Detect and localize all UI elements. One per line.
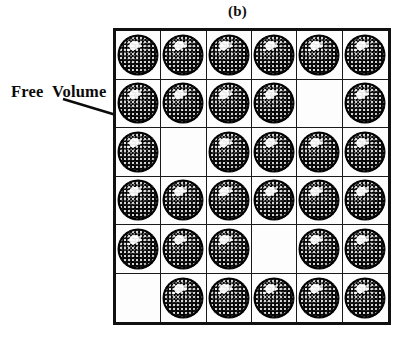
lattice-cell-occupied bbox=[161, 274, 206, 323]
molecule-texture-rim bbox=[345, 35, 385, 75]
molecule-texture-rim bbox=[118, 83, 158, 123]
molecule-texture-rim bbox=[254, 35, 294, 75]
lattice-cell-occupied bbox=[116, 80, 161, 129]
lattice-cell-occupied bbox=[343, 177, 388, 226]
molecule-texture-rim bbox=[209, 132, 249, 172]
lattice-cell-occupied bbox=[343, 31, 388, 80]
molecule-circle-icon bbox=[299, 35, 339, 75]
lattice-cell-occupied bbox=[207, 128, 252, 177]
molecule-texture-rim bbox=[299, 132, 339, 172]
figure-caption: (b) bbox=[0, 3, 417, 20]
lattice-cell-occupied bbox=[207, 225, 252, 274]
lattice-cell-occupied bbox=[252, 274, 297, 323]
molecule-circle-icon bbox=[209, 180, 249, 220]
molecule-circle-icon bbox=[299, 229, 339, 269]
lattice-cell-occupied bbox=[116, 177, 161, 226]
molecule-circle-icon bbox=[118, 35, 158, 75]
lattice-cell-occupied bbox=[343, 128, 388, 177]
molecule-circle-icon bbox=[163, 83, 203, 123]
lattice-cell-occupied bbox=[297, 225, 342, 274]
lattice-cell-occupied bbox=[207, 177, 252, 226]
molecule-circle-icon bbox=[345, 35, 385, 75]
lattice-cell-occupied bbox=[297, 177, 342, 226]
molecule-texture-rim bbox=[118, 132, 158, 172]
molecule-circle-icon bbox=[254, 180, 294, 220]
molecule-texture-rim bbox=[345, 132, 385, 172]
molecule-circle-icon bbox=[118, 180, 158, 220]
figure-canvas: (b) Free Volume bbox=[0, 0, 417, 342]
molecule-texture-rim bbox=[118, 35, 158, 75]
molecule-texture-rim bbox=[163, 229, 203, 269]
molecule-texture-rim bbox=[345, 180, 385, 220]
molecule-texture-rim bbox=[299, 180, 339, 220]
molecule-texture-rim bbox=[254, 180, 294, 220]
lattice-cell-occupied bbox=[297, 31, 342, 80]
molecule-circle-icon bbox=[299, 132, 339, 172]
molecule-circle-icon bbox=[209, 278, 249, 318]
lattice-cell-occupied bbox=[207, 80, 252, 129]
molecule-circle-icon bbox=[254, 278, 294, 318]
molecule-texture-rim bbox=[209, 35, 249, 75]
molecule-circle-icon bbox=[299, 180, 339, 220]
lattice-grid bbox=[113, 28, 391, 325]
molecule-texture-rim bbox=[254, 132, 294, 172]
molecule-texture-rim bbox=[163, 180, 203, 220]
molecule-circle-icon bbox=[118, 229, 158, 269]
molecule-texture-rim bbox=[163, 83, 203, 123]
molecule-circle-icon bbox=[345, 132, 385, 172]
lattice-cell-free-volume bbox=[161, 128, 206, 177]
molecule-texture-rim bbox=[299, 35, 339, 75]
molecule-texture-rim bbox=[345, 278, 385, 318]
molecule-circle-icon bbox=[118, 83, 158, 123]
lattice-cell-occupied bbox=[343, 274, 388, 323]
molecule-circle-icon bbox=[163, 278, 203, 318]
molecule-texture-rim bbox=[209, 229, 249, 269]
lattice-cell-occupied bbox=[161, 80, 206, 129]
molecule-texture-rim bbox=[299, 229, 339, 269]
lattice-cell-occupied bbox=[161, 177, 206, 226]
lattice-cell-occupied bbox=[116, 31, 161, 80]
lattice-cell-occupied bbox=[297, 128, 342, 177]
lattice-cell-occupied bbox=[252, 128, 297, 177]
molecule-circle-icon bbox=[163, 35, 203, 75]
molecule-circle-icon bbox=[254, 35, 294, 75]
molecule-circle-icon bbox=[209, 83, 249, 123]
molecule-texture-rim bbox=[254, 278, 294, 318]
molecule-circle-icon bbox=[254, 83, 294, 123]
molecule-texture-rim bbox=[118, 229, 158, 269]
molecule-circle-icon bbox=[163, 229, 203, 269]
molecule-texture-rim bbox=[163, 35, 203, 75]
molecule-circle-icon bbox=[118, 132, 158, 172]
molecule-circle-icon bbox=[163, 180, 203, 220]
lattice-cell-occupied bbox=[116, 225, 161, 274]
lattice-cell-occupied bbox=[343, 225, 388, 274]
lattice-cell-occupied bbox=[343, 80, 388, 129]
lattice-cell-occupied bbox=[207, 274, 252, 323]
molecule-circle-icon bbox=[254, 132, 294, 172]
lattice-cell-occupied bbox=[161, 31, 206, 80]
free-volume-annotation-label: Free Volume bbox=[11, 82, 107, 102]
lattice-cell-occupied bbox=[207, 31, 252, 80]
molecule-texture-rim bbox=[118, 180, 158, 220]
molecule-circle-icon bbox=[209, 35, 249, 75]
lattice-cell-free-volume bbox=[252, 225, 297, 274]
molecule-texture-rim bbox=[345, 229, 385, 269]
lattice-cell-occupied bbox=[161, 225, 206, 274]
molecule-texture-rim bbox=[163, 278, 203, 318]
molecule-circle-icon bbox=[209, 132, 249, 172]
molecule-circle-icon bbox=[209, 229, 249, 269]
lattice-cell-free-volume bbox=[116, 274, 161, 323]
molecule-texture-rim bbox=[209, 83, 249, 123]
lattice-cell-occupied bbox=[116, 128, 161, 177]
molecule-texture-rim bbox=[254, 83, 294, 123]
molecule-texture-rim bbox=[209, 180, 249, 220]
molecule-circle-icon bbox=[345, 180, 385, 220]
lattice-cell-occupied bbox=[252, 177, 297, 226]
molecule-texture-rim bbox=[209, 278, 249, 318]
lattice-cell-occupied bbox=[297, 274, 342, 323]
molecule-texture-rim bbox=[299, 278, 339, 318]
molecule-circle-icon bbox=[345, 278, 385, 318]
molecule-circle-icon bbox=[299, 278, 339, 318]
lattice-cell-occupied bbox=[252, 31, 297, 80]
molecule-texture-rim bbox=[345, 83, 385, 123]
